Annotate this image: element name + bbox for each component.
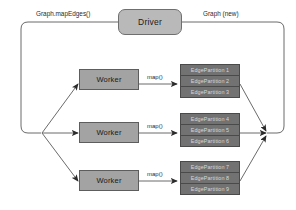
partition-stack-2[interactable]: EdgePartition 4 EdgePartition 5 EdgePart… (180, 113, 240, 147)
partition-row[interactable]: EdgePartition 1 (181, 65, 239, 76)
edge-label-map-2: map() (147, 123, 163, 129)
partition-stack-1[interactable]: EdgePartition 1 EdgePartition 2 EdgePart… (180, 64, 240, 98)
connector-partitions-1-to-merge (240, 84, 266, 131)
edge-label-map-3: map() (147, 171, 163, 177)
partition-row[interactable]: EdgePartition 4 (181, 114, 239, 125)
partition-row[interactable]: EdgePartition 8 (181, 173, 239, 184)
connector-partitions-3-to-merge (240, 136, 266, 181)
edge-label-map-1: map() (147, 74, 163, 80)
partition-row[interactable]: EdgePartition 9 (181, 184, 239, 194)
partition-row[interactable]: EdgePartition 6 (181, 136, 239, 146)
partition-row[interactable]: EdgePartition 3 (181, 87, 239, 97)
edge-label-graph-out: Graph (new) (203, 10, 239, 17)
worker-label-1: Worker (96, 75, 121, 84)
driver-node[interactable]: Driver (118, 9, 182, 35)
worker-label-3: Worker (96, 176, 121, 185)
worker-node-2[interactable]: Worker (79, 122, 139, 143)
partition-row[interactable]: EdgePartition 5 (181, 125, 239, 136)
connector-fanout-to-worker-1 (42, 84, 78, 133)
driver-label: Driver (138, 17, 162, 27)
diagram-canvas: Driver Graph.mapEdges() Graph (new) Work… (0, 0, 296, 210)
partition-row[interactable]: EdgePartition 2 (181, 76, 239, 87)
worker-node-1[interactable]: Worker (79, 69, 139, 90)
partition-row[interactable]: EdgePartition 7 (181, 162, 239, 173)
edge-label-graph-in: Graph.mapEdges() (36, 10, 90, 17)
partition-stack-3[interactable]: EdgePartition 7 EdgePartition 8 EdgePart… (180, 161, 240, 195)
connector-fanout-to-worker-3 (42, 133, 78, 181)
worker-label-2: Worker (96, 128, 121, 137)
worker-node-3[interactable]: Worker (79, 170, 139, 191)
